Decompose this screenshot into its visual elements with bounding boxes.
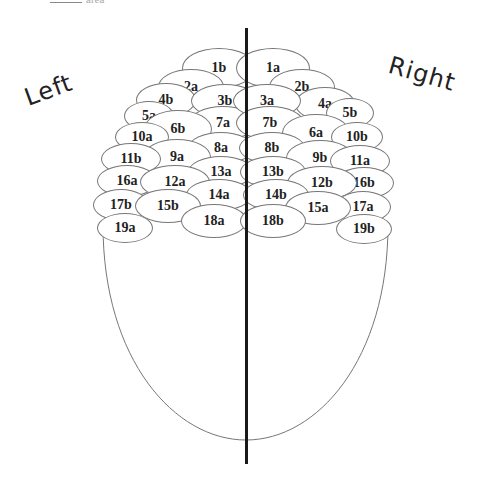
region-label: 18b: [262, 213, 284, 229]
region-label: 9a: [170, 149, 184, 165]
region-label: 15b: [157, 198, 179, 214]
region-label: 16a: [117, 173, 138, 189]
region-label: 13b: [262, 164, 284, 180]
midline-divider: [245, 28, 248, 464]
region-18b: 18b: [240, 204, 306, 238]
region-label: 6b: [171, 121, 186, 137]
region-19b: 19b: [336, 214, 392, 244]
region-label: 7b: [263, 115, 278, 131]
region-label: 5b: [343, 105, 358, 121]
region-label: 15a: [308, 200, 329, 216]
region-19a: 19a: [97, 213, 153, 243]
region-label: 17a: [353, 199, 374, 215]
region-label: 6a: [309, 125, 323, 141]
region-label: 18a: [204, 213, 225, 229]
region-label: 14b: [265, 187, 287, 203]
region-18a: 18a: [181, 204, 247, 238]
region-label: 7a: [216, 115, 230, 131]
region-label: 8a: [214, 140, 228, 156]
region-label: 9b: [313, 150, 328, 166]
region-label: 19a: [115, 220, 136, 236]
region-label: 8b: [265, 140, 280, 156]
region-label: 12a: [165, 174, 186, 190]
region-label: 10b: [346, 129, 368, 145]
scalp-region-diagram: area Left Right 1b2a4b3b5a7a6b10a8a9a11b…: [0, 0, 480, 482]
region-label: 14a: [209, 187, 230, 203]
region-label: 17b: [110, 197, 132, 213]
region-label: 12b: [311, 175, 333, 191]
region-label: 13a: [211, 164, 232, 180]
region-label: 19b: [353, 221, 375, 237]
